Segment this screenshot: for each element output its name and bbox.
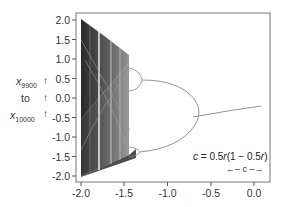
y-tick: 1.5 — [55, 34, 70, 46]
period-2-branch — [140, 80, 199, 152]
x-axis — [81, 182, 254, 186]
y-tick: -0.5 — [52, 112, 70, 124]
equation-annotation: c = 0.5r(1 − 0.5r) — [193, 151, 268, 162]
x-tick: -2.0 — [72, 187, 90, 199]
period-4-branches — [129, 68, 142, 157]
c-range-arrow: ←– c –→ — [226, 164, 264, 174]
y-tick: 0.0 — [55, 92, 70, 104]
y-tick: -1.5 — [52, 151, 70, 163]
x-tick: -0.5 — [202, 187, 220, 199]
y-tick: 1.0 — [55, 53, 70, 65]
chaos-region — [81, 19, 136, 177]
y-label-bottom: x10000 — [10, 109, 35, 123]
arrow-up-icon: ↑ — [43, 108, 48, 119]
y-label-top: x9900 — [16, 75, 37, 89]
fixed-point-branch — [193, 106, 261, 117]
x-tick: -1.0 — [158, 187, 176, 199]
y-label-mid: to — [21, 92, 30, 104]
bifurcation-chart: 2.0 1.5 1.0 0.5 0.0 -0.5 -1.0 -1.5 -2.0 … — [0, 0, 285, 207]
y-tick: -2.0 — [52, 170, 70, 182]
x-tick: -1.5 — [115, 187, 133, 199]
x-tick: 0.0 — [247, 187, 262, 199]
y-tick: 2.0 — [55, 14, 70, 26]
y-axis — [72, 20, 76, 176]
arrow-up-icon: ↑ — [43, 92, 48, 103]
y-tick: 0.5 — [55, 73, 70, 85]
arrow-up-icon: ↑ — [43, 75, 48, 86]
y-tick: -1.0 — [52, 131, 70, 143]
